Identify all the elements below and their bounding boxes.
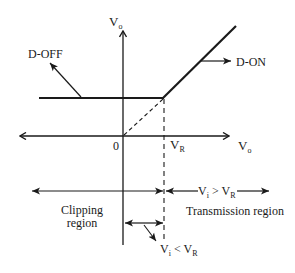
transmission-slope-line	[163, 26, 236, 98]
dashed-slope-extension	[124, 99, 163, 135]
d-off-label: D-OFF	[28, 47, 63, 61]
x-axis-label: Vo	[238, 138, 251, 155]
origin-label: 0	[113, 139, 119, 153]
d-on-label: D-ON	[236, 55, 266, 69]
vi-gt-vr-label: Vi > VR	[198, 184, 236, 200]
y-axis-label: Vo	[109, 14, 122, 31]
vi-lt-vr-pointer	[144, 225, 156, 241]
clipper-transfer-characteristic-diagram: Vo D-OFF D-ON 0 VR Vo Vi > VR Clipping r…	[0, 0, 295, 273]
clipping-region-label-line2: region	[67, 216, 98, 230]
vi-lt-vr-label: Vi < VR	[160, 242, 198, 258]
d-off-pointer-arrow	[50, 63, 81, 97]
vr-label: VR	[170, 137, 185, 154]
transmission-region-label: Transmission region	[186, 204, 284, 218]
clipping-region-label-line1: Clipping	[61, 203, 103, 217]
